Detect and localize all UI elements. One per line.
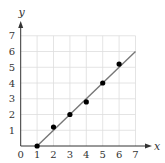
y-tick-label: 4 (9, 78, 15, 89)
grid-lines (21, 36, 136, 146)
y-tick-label: 7 (9, 30, 15, 41)
axes (18, 21, 152, 149)
data-point (84, 99, 89, 104)
y-axis-label: y (18, 6, 26, 19)
x-tick-label: 3 (67, 149, 73, 160)
y-tick-label: 3 (9, 93, 15, 104)
x-tick-label: 2 (50, 149, 56, 160)
y-tick-label: 5 (9, 62, 15, 73)
y-axis-arrow-icon (18, 21, 23, 28)
x-axis-label: x (154, 140, 161, 153)
data-point (35, 143, 40, 148)
y-tick-label: 2 (9, 109, 15, 120)
x-axis-arrow-icon (145, 144, 152, 149)
y-tick-label: 6 (9, 46, 15, 57)
y-tick-label: 1 (9, 125, 15, 136)
x-tick-label: 5 (100, 149, 106, 160)
data-point (67, 112, 72, 117)
x-tick-label: 0 (18, 149, 24, 160)
x-tick-label: 7 (132, 149, 138, 160)
data-point (117, 62, 122, 67)
x-tick-label: 6 (116, 149, 122, 160)
x-tick-label: 1 (34, 149, 40, 160)
data-point (100, 80, 105, 85)
data-point (51, 125, 56, 130)
x-tick-label: 4 (83, 149, 89, 160)
scatter-chart: 012345671234567xy (0, 0, 165, 163)
